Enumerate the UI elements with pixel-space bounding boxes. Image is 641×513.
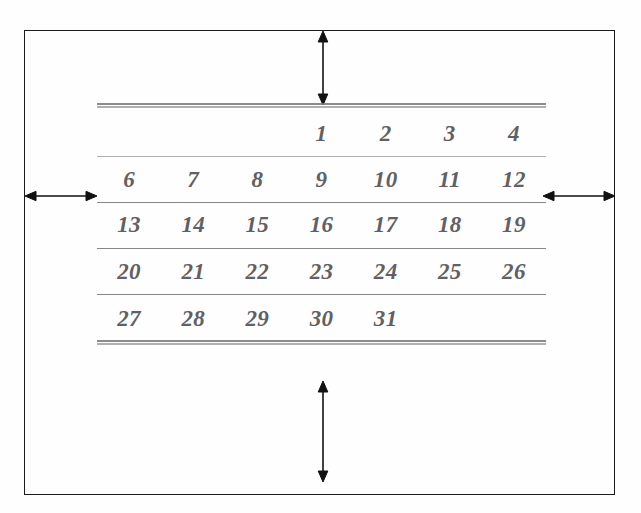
calendar-cell[interactable]: 21 (161, 260, 225, 283)
calendar-cell[interactable]: 11 (418, 168, 482, 191)
calendar-cell[interactable]: 10 (354, 168, 418, 191)
calendar-row-week-1: 1 2 3 4 (97, 108, 546, 156)
rule-week-4-bottom (97, 294, 546, 295)
calendar-cell[interactable]: 16 (289, 213, 353, 236)
right-margin-arrow (543, 183, 615, 209)
calendar-row-week-4: 20 21 22 23 24 25 26 (97, 249, 546, 294)
calendar-cell[interactable]: 12 (482, 168, 546, 191)
bottom-margin-arrow (305, 381, 341, 482)
calendar-cell[interactable]: 6 (97, 168, 161, 191)
calendar-cell[interactable]: 9 (289, 168, 353, 191)
calendar-cell[interactable]: 7 (161, 168, 225, 191)
calendar-cell[interactable]: 19 (482, 213, 546, 236)
calendar-row-week-3: 13 14 15 16 17 18 19 (97, 203, 546, 248)
calendar-cell[interactable]: 4 (482, 122, 546, 145)
calendar-cell[interactable]: 14 (161, 213, 225, 236)
calendar-cell[interactable]: 31 (354, 307, 418, 330)
calendar-cell[interactable]: 24 (354, 260, 418, 283)
left-margin-arrow (25, 183, 97, 209)
calendar-cell[interactable]: 26 (482, 260, 546, 283)
calendar-cell[interactable]: 2 (354, 122, 418, 145)
calendar-cell[interactable]: 28 (161, 307, 225, 330)
calendar-cell[interactable]: 3 (418, 122, 482, 145)
calendar-cell[interactable]: 23 (289, 260, 353, 283)
calendar-cell[interactable]: 27 (97, 307, 161, 330)
calendar-cell[interactable]: 30 (289, 307, 353, 330)
rule-bottom-heavy (97, 340, 546, 345)
diagram-canvas: 1 2 3 4 6 7 8 9 10 11 12 13 14 15 16 17 … (0, 0, 641, 513)
calendar-row-week-5: 27 28 29 30 31 (97, 295, 546, 340)
calendar-cell[interactable]: 1 (289, 122, 353, 145)
calendar-cell[interactable]: 29 (225, 307, 289, 330)
calendar-cell[interactable]: 20 (97, 260, 161, 283)
rule-top-heavy (97, 103, 546, 108)
rule-week-1-bottom (97, 156, 546, 157)
rule-week-2-bottom (97, 202, 546, 203)
calendar-row-week-2: 6 7 8 9 10 11 12 (97, 157, 546, 202)
calendar-cell[interactable]: 8 (225, 168, 289, 191)
calendar-cell[interactable]: 17 (354, 213, 418, 236)
calendar-cell[interactable]: 18 (418, 213, 482, 236)
calendar-cell[interactable]: 15 (225, 213, 289, 236)
calendar-cell[interactable]: 13 (97, 213, 161, 236)
calendar-cell[interactable]: 22 (225, 260, 289, 283)
calendar-grid: 1 2 3 4 6 7 8 9 10 11 12 13 14 15 16 17 … (97, 103, 546, 345)
top-margin-arrow (305, 31, 341, 105)
calendar-cell[interactable]: 25 (418, 260, 482, 283)
rule-week-3-bottom (97, 248, 546, 249)
